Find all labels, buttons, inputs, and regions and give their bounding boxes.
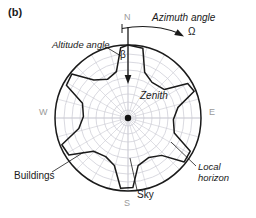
grid-spoke	[76, 118, 128, 170]
grid-spoke	[57, 118, 128, 137]
beta-symbol-label: β	[120, 50, 126, 61]
grid-spoke	[128, 118, 147, 189]
cardinal-north-label: N	[124, 13, 131, 22]
grid-spoke	[128, 118, 180, 170]
cardinal-east-label: E	[209, 108, 215, 117]
sky-label: Sky	[137, 190, 154, 201]
cardinal-south-label: S	[124, 199, 130, 208]
azimuth-angle-label: Azimuth angle	[152, 13, 215, 24]
grid-spoke	[128, 99, 199, 118]
grid-spoke	[57, 99, 128, 118]
buildings-label: Buildings	[14, 171, 55, 182]
grid-spoke	[128, 118, 199, 137]
grid-spoke	[76, 66, 128, 118]
figure-panel-b: (b) Azimuth angle Ω Altitude angle β	[0, 0, 256, 218]
local-horizon-label-line2: horizon	[198, 172, 229, 183]
cardinal-west-label: W	[39, 108, 48, 117]
zenith-point	[125, 115, 131, 121]
local-horizon-label: Local horizon	[198, 162, 229, 184]
altitude-angle-label: Altitude angle	[52, 40, 110, 50]
omega-symbol-label: Ω	[188, 27, 195, 38]
zenith-label: Zenith	[140, 91, 168, 102]
local-horizon-label-line1: Local	[198, 161, 221, 172]
panel-label: (b)	[8, 6, 22, 18]
azimuth-angle-arrow	[122, 24, 184, 37]
